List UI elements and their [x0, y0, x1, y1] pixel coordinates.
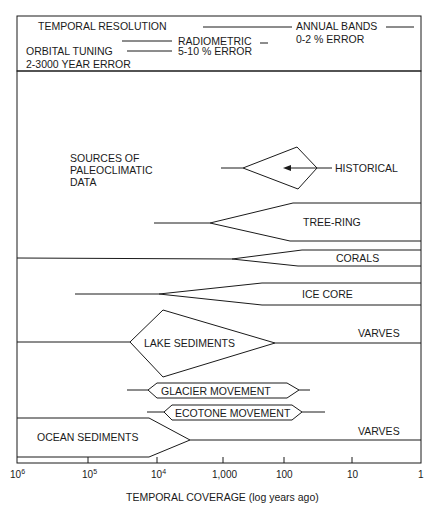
caption-line-3: DATA — [70, 176, 96, 188]
resolution-title: TEMPORAL RESOLUTION — [38, 20, 167, 32]
orbital-label: ORBITAL TUNING — [26, 45, 113, 57]
tick-label-1e5: 105 — [82, 468, 97, 480]
historical-label: HISTORICAL — [335, 162, 398, 174]
paleoclimate-diagram: TEMPORAL RESOLUTION ANNUAL BANDS 0-2 % E… — [0, 0, 440, 517]
tick-label-1e4: 104 — [151, 468, 166, 480]
axis-ticks — [88, 457, 352, 463]
annual-error-label: 0-2 % ERROR — [296, 33, 365, 45]
corals-label: CORALS — [336, 252, 379, 264]
historical-shape — [221, 147, 332, 189]
ocean-sediments-label: OCEAN SEDIMENTS — [37, 431, 139, 443]
caption-line-2: PALEOCLIMATIC — [70, 164, 153, 176]
main-frame — [17, 71, 421, 463]
glacier-movement-label: GLACIER MOVEMENT — [161, 385, 271, 397]
axis-label: TEMPORAL COVERAGE (log years ago) — [126, 491, 319, 503]
lake-sediments-label: LAKE SEDIMENTS — [144, 337, 235, 349]
ecotone-movement-label: ECOTONE MOVEMENT — [175, 407, 291, 419]
annual-bands-label: ANNUAL BANDS — [296, 20, 377, 32]
tick-label-1000: 1,000 — [212, 469, 237, 480]
tree-ring-label: TREE-RING — [303, 216, 361, 228]
arrow-left-icon — [283, 165, 291, 171]
radiometric-error-label: 5-10 % ERROR — [178, 45, 253, 57]
ice-core-shape — [75, 283, 421, 305]
tick-label-1: 1 — [418, 469, 424, 480]
lake-varves-label: VARVES — [358, 327, 400, 339]
ice-core-label: ICE CORE — [302, 288, 353, 300]
tick-label-1e6: 106 — [10, 468, 25, 480]
tick-label-10: 10 — [347, 469, 359, 480]
tree-ring-shape — [154, 203, 421, 241]
tick-label-100: 100 — [276, 469, 293, 480]
ocean-varves-label: VARVES — [358, 425, 400, 437]
caption-line-1: SOURCES OF — [70, 152, 139, 164]
orbital-error-label: 2-3000 YEAR ERROR — [26, 58, 131, 70]
